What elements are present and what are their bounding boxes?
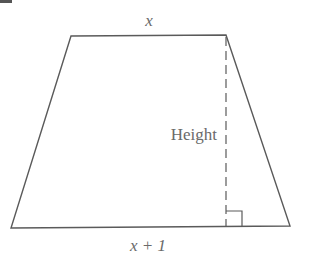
bottom-base-label: x + 1 xyxy=(129,236,166,255)
top-base-label: x xyxy=(144,11,153,30)
height-label: Height xyxy=(171,125,218,144)
trapezoid-diagram: x Height x + 1 xyxy=(0,0,309,267)
right-angle-marker xyxy=(226,211,242,227)
trapezoid-shape xyxy=(11,35,290,228)
cropped-figure-number xyxy=(0,0,12,3)
